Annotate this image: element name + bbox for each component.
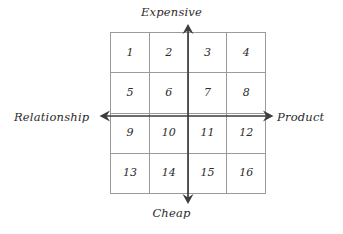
grid-cell[interactable]: 11	[188, 113, 227, 154]
grid-cell[interactable]: 4	[227, 33, 266, 74]
axis-label-cheap: Cheap	[0, 206, 343, 220]
grid-cell[interactable]: 7	[188, 73, 227, 114]
grid-cell[interactable]: 3	[188, 33, 227, 74]
grid-cell[interactable]: 10	[149, 113, 188, 154]
diagram-canvas: Expensive Cheap Relationship Product 1 2…	[0, 0, 343, 234]
grid-cell[interactable]: 13	[111, 153, 150, 194]
axis-label-relationship: Relationship	[14, 110, 89, 124]
axis-label-product: Product	[277, 110, 324, 124]
grid-cell[interactable]: 2	[149, 33, 188, 74]
grid-cell[interactable]: 1	[111, 33, 150, 74]
grid-cell[interactable]: 5	[111, 73, 150, 114]
grid-cell[interactable]: 16	[227, 153, 266, 194]
grid-cell[interactable]: 14	[149, 153, 188, 194]
grid-cell[interactable]: 12	[227, 113, 266, 154]
grid-cell[interactable]: 8	[227, 73, 266, 114]
axis-label-expensive: Expensive	[0, 5, 343, 19]
grid-cell[interactable]: 9	[111, 113, 150, 154]
grid-cell[interactable]: 15	[188, 153, 227, 194]
grid-cell[interactable]: 6	[149, 73, 188, 114]
